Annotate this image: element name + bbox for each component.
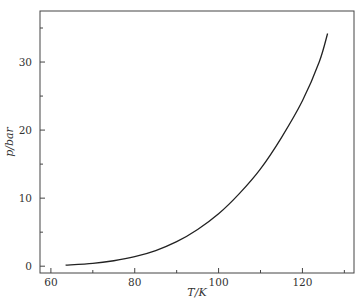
y-tick-label: 30 — [19, 56, 32, 68]
y-axis-ticks: 0102030 — [19, 28, 45, 272]
data-line — [66, 33, 328, 265]
x-tick-label: 80 — [128, 276, 141, 288]
plot-frame — [40, 11, 354, 273]
y-tick-label: 20 — [19, 124, 32, 136]
x-axis-label: T/K — [187, 286, 207, 299]
x-tick-label: 60 — [44, 276, 57, 288]
y-tick-label: 0 — [25, 260, 32, 272]
x-tick-label: 100 — [209, 276, 229, 288]
x-axis-ticks: 6080100120 — [44, 268, 344, 288]
x-tick-label: 120 — [292, 276, 312, 288]
chart: 6080100120 0102030 T/K p/bar — [0, 0, 363, 302]
y-tick-label: 10 — [19, 192, 32, 204]
y-axis-label: p/bar — [3, 126, 16, 156]
